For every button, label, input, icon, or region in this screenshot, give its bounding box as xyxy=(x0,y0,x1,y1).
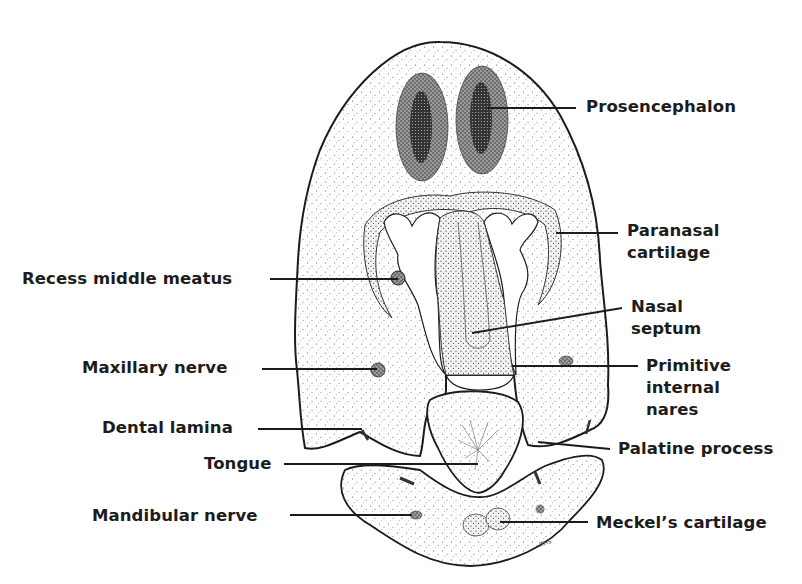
label-line: Nasal xyxy=(631,296,701,318)
label-prosencephalon: Prosencephalon xyxy=(586,96,736,118)
label-line: internal xyxy=(646,377,731,399)
label-meckels-cartilage: Meckel’s cartilage xyxy=(596,512,767,534)
recess-middle-meatus xyxy=(391,271,405,285)
label-maxillary-nerve: Maxillary nerve xyxy=(82,357,227,379)
label-paranasal-cartilage: Paranasal cartilage xyxy=(627,220,719,264)
label-line: Paranasal xyxy=(627,220,719,242)
label-line: Primitive xyxy=(646,355,731,377)
label-mandibular-nerve: Mandibular nerve xyxy=(92,505,258,527)
tongue xyxy=(427,391,523,492)
maxillary-nerve-left xyxy=(371,363,385,377)
label-line: Prosencephalon xyxy=(586,96,736,118)
maxillary-nerve-right xyxy=(559,356,573,366)
anatomical-diagram: RHS xyxy=(0,0,802,584)
label-line: Palatine process xyxy=(618,438,773,460)
label-primitive-internal-nares: Primitive internal nares xyxy=(646,355,731,421)
label-nasal-septum: Nasal septum xyxy=(631,296,701,340)
label-tongue: Tongue xyxy=(204,453,272,475)
meckels-cartilage-right xyxy=(486,508,510,530)
meckels-cartilage-left xyxy=(463,514,489,536)
mandibular-nerve-right xyxy=(536,505,545,514)
label-recess-middle-meatus: Recess middle meatus xyxy=(22,268,232,290)
label-dental-lamina: Dental lamina xyxy=(102,417,233,439)
label-line: Meckel’s cartilage xyxy=(596,512,767,534)
label-palatine-process: Palatine process xyxy=(618,438,773,460)
label-line: septum xyxy=(631,318,701,340)
label-line: cartilage xyxy=(627,242,719,264)
label-line: nares xyxy=(646,399,731,421)
